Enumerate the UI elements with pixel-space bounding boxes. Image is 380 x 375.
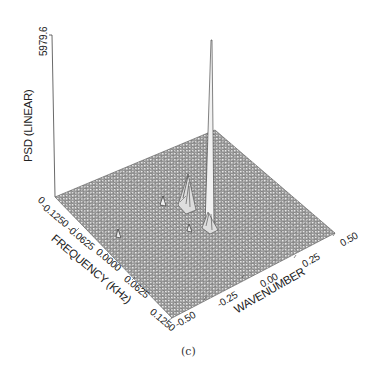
surface-mesh [55, 130, 335, 318]
z-axis-line [52, 35, 55, 197]
z-axis-max-label: 5979.6 [38, 27, 49, 56]
z-axis-title: PSD (LINEAR) [22, 90, 34, 162]
figure-caption: (c) [181, 345, 196, 358]
